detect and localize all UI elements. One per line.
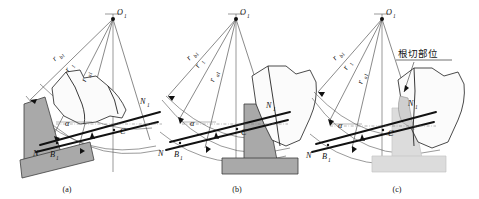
- panel-c-rack-base: [372, 156, 446, 172]
- panel-b-label-O-sub: 1: [247, 13, 250, 19]
- panel-c-label-N: N: [305, 151, 312, 160]
- panel-a-label-B1: B: [50, 150, 55, 159]
- panel-c-label-N1-sub: 1: [415, 104, 418, 110]
- panel-c-label-O: O: [386, 8, 392, 17]
- panel-a-label-B1-sub: 1: [56, 155, 59, 161]
- panel-a-label-C: C: [120, 127, 126, 136]
- panel-a-point-O1: [111, 17, 115, 21]
- panel-c-point-C: [382, 129, 384, 131]
- panel-b-label-B1-sub: 1: [180, 155, 183, 161]
- panel-b-label-B1: B: [174, 150, 179, 159]
- panel-c-label-C: C: [388, 129, 394, 138]
- panel-c-point-B1: [327, 144, 329, 146]
- panel-b-label-N: N: [157, 149, 164, 158]
- panel-b-label-N1-sub: 1: [273, 106, 276, 112]
- panel-c-point-O1: [380, 17, 384, 21]
- panel-a-label-O-sub: 1: [124, 13, 127, 19]
- caption-b: (b): [232, 185, 242, 194]
- panel-a-label-O: O: [117, 8, 123, 17]
- figure-root: O 1 r b1 r 1 r a1 N 1 C α N B 1 (a): [0, 0, 479, 199]
- panel-a-label-N1-sub: 1: [147, 102, 150, 108]
- panel-a-label-N: N: [32, 149, 39, 158]
- panel-a-label-N1: N: [139, 97, 146, 106]
- panel-c-label-N1: N: [407, 99, 414, 108]
- caption-a: (a): [63, 185, 72, 194]
- caption-c: (c): [393, 185, 402, 194]
- panel-a-point-C: [113, 129, 115, 131]
- panel-b-point-O1: [234, 17, 238, 21]
- panel-c-label-alpha: α: [338, 121, 343, 130]
- panel-b-rack-base: [222, 158, 298, 174]
- undercut-annotation-label: 根切部位: [398, 48, 438, 59]
- gear-undercut-diagram: O 1 r b1 r 1 r a1 N 1 C α N B 1 (a): [0, 0, 479, 199]
- panel-c-label-O-sub: 1: [393, 13, 396, 19]
- panel-b-label-alpha: α: [190, 119, 195, 128]
- panel-c-label-B1-sub: 1: [328, 157, 331, 163]
- panel-a-label-alpha: α: [65, 119, 70, 128]
- panel-b-label-C: C: [241, 128, 247, 137]
- panel-b-point-B1: [179, 142, 181, 144]
- panel-a-point-B1: [56, 142, 58, 144]
- panel-b-label-N1: N: [265, 101, 272, 110]
- panel-c-label-B1: B: [322, 152, 327, 161]
- panel-b-label-O: O: [240, 8, 246, 17]
- panel-b-point-C: [236, 128, 238, 130]
